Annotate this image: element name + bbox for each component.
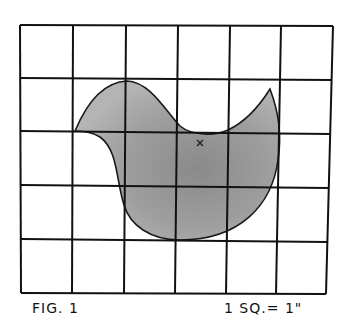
grid-pattern-figure (0, 0, 345, 331)
scale-label: 1 SQ.= 1" (224, 300, 302, 316)
figure-label: FIG. 1 (32, 300, 79, 316)
grid (20, 25, 333, 294)
